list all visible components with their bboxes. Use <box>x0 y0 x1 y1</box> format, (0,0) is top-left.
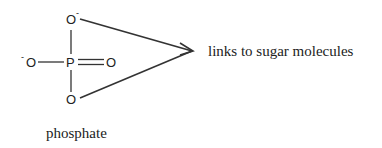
atom-o-bottom: O <box>66 92 76 107</box>
atom-p: P <box>66 55 75 70</box>
caption: phosphate <box>46 125 107 141</box>
atom-o-top: O <box>66 12 76 27</box>
atom-o-right: O <box>106 55 116 70</box>
atom-o-left: O <box>26 55 36 70</box>
arrow-line-bottom <box>80 51 192 98</box>
phosphate-diagram: O - - O P O O links to sugar molecules p… <box>0 0 382 148</box>
arrow-line-top <box>80 19 192 51</box>
charge-left: - <box>21 52 24 62</box>
arrow-label: links to sugar molecules <box>208 43 354 59</box>
charge-top: - <box>76 8 79 18</box>
